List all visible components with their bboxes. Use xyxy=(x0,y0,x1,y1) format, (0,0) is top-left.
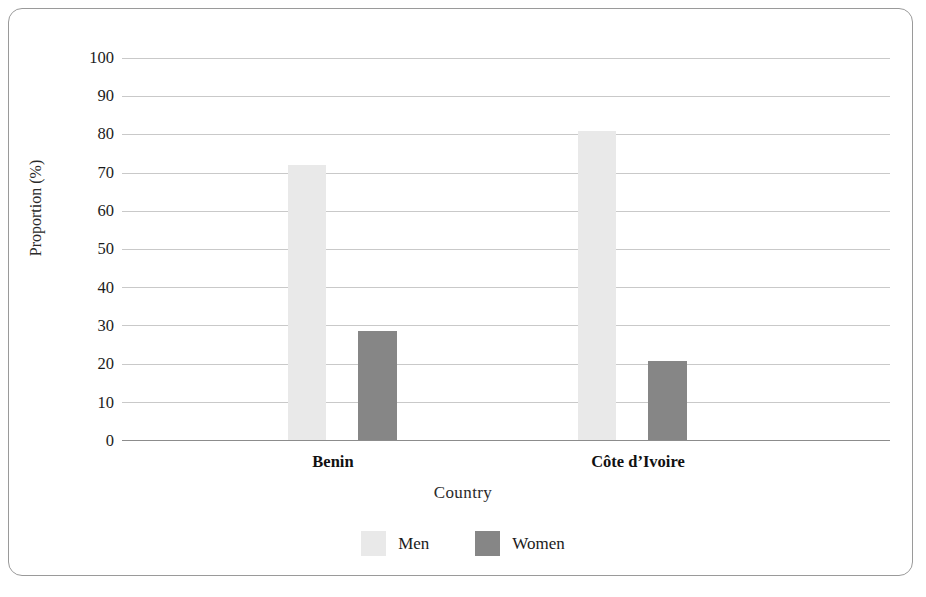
gridline-70 xyxy=(122,173,890,174)
gridline-0-baseline xyxy=(122,440,890,441)
legend-swatch-women-icon xyxy=(475,531,500,556)
gridline-30 xyxy=(122,325,890,326)
x-axis-title: Country xyxy=(0,483,926,503)
y-tick-80: 80 xyxy=(68,126,114,143)
x-tick-label-benin: Benin xyxy=(268,452,398,472)
gridline-60 xyxy=(122,211,890,212)
y-tick-70: 70 xyxy=(68,165,114,182)
bar-cote-divoire-women[interactable] xyxy=(648,361,687,440)
legend-item-women[interactable]: Women xyxy=(475,531,564,556)
gridline-80 xyxy=(122,134,890,135)
gridline-10 xyxy=(122,402,890,403)
legend-item-men[interactable]: Men xyxy=(361,531,429,556)
y-tick-60: 60 xyxy=(68,203,114,220)
y-tick-40: 40 xyxy=(68,280,114,297)
x-tick-label-cote-divoire: Côte d’Ivoire xyxy=(548,452,728,472)
gridline-100 xyxy=(122,58,890,59)
legend-swatch-men-icon xyxy=(361,531,386,556)
y-tick-0: 0 xyxy=(68,433,114,450)
y-axis-tick-labels: 100 90 80 70 60 50 40 30 20 10 0 xyxy=(62,58,114,440)
y-tick-90: 90 xyxy=(68,88,114,105)
legend-label-men: Men xyxy=(398,534,429,554)
y-tick-20: 20 xyxy=(68,356,114,373)
gridline-20 xyxy=(122,364,890,365)
plot-area xyxy=(122,58,890,440)
chart-legend: Men Women xyxy=(0,531,926,556)
bar-cote-divoire-men[interactable] xyxy=(578,131,616,440)
chart-figure: Proportion (%) 100 90 80 70 60 50 40 30 … xyxy=(0,0,926,597)
y-tick-50: 50 xyxy=(68,241,114,258)
y-tick-10: 10 xyxy=(68,395,114,412)
bar-benin-men[interactable] xyxy=(288,165,326,440)
gridline-50 xyxy=(122,249,890,250)
y-tick-100: 100 xyxy=(68,50,114,67)
bar-benin-women[interactable] xyxy=(358,331,397,440)
y-axis-title: Proportion (%) xyxy=(27,118,45,298)
y-tick-30: 30 xyxy=(68,318,114,335)
gridline-40 xyxy=(122,287,890,288)
legend-label-women: Women xyxy=(512,534,564,554)
gridline-90 xyxy=(122,96,890,97)
